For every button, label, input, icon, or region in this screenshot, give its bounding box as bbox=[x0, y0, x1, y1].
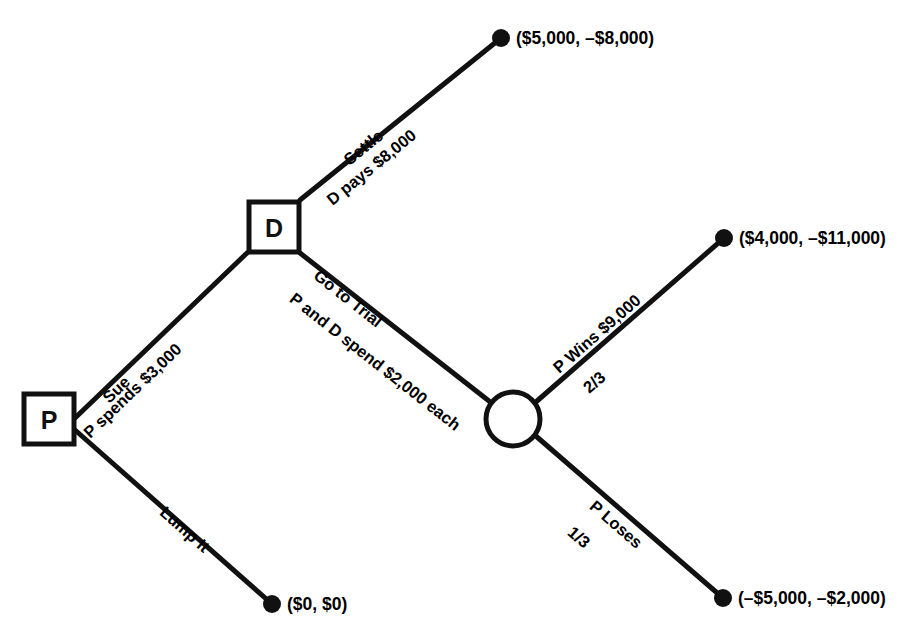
branch-line-p-wins bbox=[537, 238, 724, 401]
payoff-label-p-loses: (–$5,000, –$2,000) bbox=[738, 588, 886, 609]
branch-line-p-loses bbox=[537, 437, 723, 598]
branch-line-settle bbox=[300, 38, 501, 200]
payoff-label-lump-it-text: ($0, $0) bbox=[287, 594, 347, 614]
payoff-label-settle-text: ($5,000, –$8,000) bbox=[516, 28, 654, 48]
node-chance[interactable] bbox=[486, 392, 540, 446]
decision-tree-canvas: P D bbox=[0, 0, 913, 644]
node-d-label: D bbox=[265, 214, 283, 242]
node-p-label: P bbox=[41, 406, 58, 434]
payoff-label-p-wins-text: ($4,000, –$11,000) bbox=[739, 228, 886, 248]
node-p[interactable]: P bbox=[24, 394, 74, 444]
terminal-node-p-loses bbox=[714, 589, 732, 607]
node-d[interactable]: D bbox=[249, 202, 299, 252]
payoff-label-p-wins: ($4,000, –$11,000) bbox=[739, 228, 886, 249]
terminal-node-p-wins bbox=[715, 229, 733, 247]
terminal-node-lump-it bbox=[263, 595, 281, 613]
terminal-node-settle bbox=[492, 29, 510, 47]
payoff-label-settle: ($5,000, –$8,000) bbox=[516, 28, 654, 49]
payoff-label-p-loses-text: (–$5,000, –$2,000) bbox=[738, 588, 886, 608]
node-chance-circle bbox=[486, 392, 540, 446]
payoff-label-lump-it: ($0, $0) bbox=[287, 594, 347, 615]
decision-tree-diagram: P D Settle D pays $8,000 Sue P spends $3… bbox=[0, 0, 913, 644]
